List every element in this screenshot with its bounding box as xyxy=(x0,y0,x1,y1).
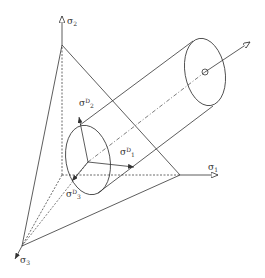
stress-space-diagram xyxy=(0,0,265,278)
sigma-d2-label: σD2 xyxy=(79,99,94,108)
sigma-d3-label: σD3 xyxy=(66,190,81,199)
sigma-d3-index: 3 xyxy=(77,193,81,200)
dashed-axes xyxy=(22,45,180,246)
sigma-d1-label: σD1 xyxy=(120,148,135,157)
sigma-d1-index: 1 xyxy=(131,151,135,158)
yield-cylinder xyxy=(60,35,230,198)
principal-axes xyxy=(15,16,218,259)
sigma2-label: σ2 xyxy=(67,17,77,26)
sigma1-index: 1 xyxy=(214,166,218,173)
sigma2-index: 2 xyxy=(73,20,77,27)
sigma3-index: 3 xyxy=(26,259,30,266)
deviatoric-plane-triangle xyxy=(22,45,180,246)
sigma3-label: σ3 xyxy=(20,256,30,265)
sigma1-label: σ1 xyxy=(208,163,218,172)
cylinder-bottom-edge xyxy=(98,106,213,193)
sigma-d2-index: 2 xyxy=(90,102,94,109)
sigma-d3-vector xyxy=(72,162,88,181)
sigma-d1-vector xyxy=(88,162,134,167)
sigma-d2-vector xyxy=(79,117,88,162)
